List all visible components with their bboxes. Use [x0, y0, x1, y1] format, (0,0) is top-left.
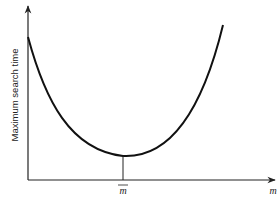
m-bar-tick-label: m	[119, 185, 126, 196]
chart: Maximum search time m m	[0, 0, 280, 202]
x-axis-label: m	[269, 185, 276, 196]
y-axis-label: Maximum search time	[9, 49, 20, 142]
search-time-curve	[28, 25, 223, 156]
